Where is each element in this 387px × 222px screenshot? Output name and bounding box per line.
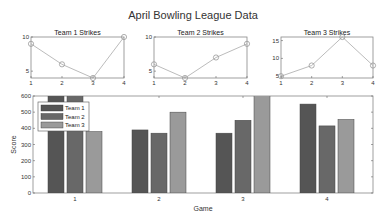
- figure: April Bowling League Data Team 1 Strikes…: [0, 0, 387, 222]
- y-tick-label: 400: [21, 125, 32, 131]
- subplot-title: Team 2 Strikes: [177, 29, 224, 36]
- bar: [300, 104, 316, 193]
- legend-label: Team 2: [65, 114, 85, 120]
- legend-label: Team 3: [65, 122, 85, 128]
- y-tick-label: 100: [21, 174, 32, 180]
- legend-swatch: [41, 114, 63, 120]
- subplot-2: Team 2 Strikes1234510: [145, 29, 249, 86]
- bar: [319, 126, 335, 193]
- x-tick-label: 4: [245, 80, 249, 86]
- plot-frame: [281, 37, 373, 78]
- chart-canvas: April Bowling League Data Team 1 Strikes…: [0, 0, 387, 222]
- bar: [338, 119, 354, 193]
- plot-frame: [154, 37, 247, 78]
- bar: [254, 90, 270, 193]
- bar: [235, 120, 251, 193]
- legend-swatch: [41, 122, 63, 128]
- x-tick-label: 1: [279, 80, 283, 86]
- y-axis-label: Score: [10, 135, 17, 153]
- x-tick-label: 1: [29, 80, 33, 86]
- subplot-1: Team 1 Strikes1234510: [22, 29, 126, 86]
- y-tick-label: 0: [28, 190, 32, 196]
- x-tick-label: 4: [325, 196, 329, 202]
- x-axis-label: Game: [193, 205, 212, 212]
- bar: [86, 132, 102, 193]
- y-tick-label: 600: [21, 93, 32, 99]
- y-tick-label: 15: [272, 38, 279, 44]
- x-tick-label: 1: [152, 80, 156, 86]
- x-tick-label: 4: [371, 80, 375, 86]
- y-tick-label: 10: [145, 34, 152, 40]
- legend-label: Team 1: [65, 105, 85, 111]
- bar-chart: 01002003004005006001234GameScoreTeam 1Te…: [10, 90, 373, 212]
- x-tick-label: 4: [122, 80, 126, 86]
- subplot-title: Team 1 Strikes: [54, 29, 101, 36]
- y-tick-label: 5: [149, 68, 153, 74]
- legend: Team 1Team 2Team 3: [38, 102, 89, 131]
- x-tick-label: 3: [214, 80, 218, 86]
- subplot-3: Team 3 Strikes123451015: [272, 29, 375, 86]
- bar: [216, 133, 232, 193]
- plot-frame: [31, 37, 124, 78]
- y-tick-label: 10: [272, 55, 279, 61]
- bar: [170, 112, 186, 193]
- x-tick-label: 2: [310, 80, 314, 86]
- y-tick-label: 10: [22, 34, 29, 40]
- x-tick-label: 3: [341, 80, 345, 86]
- x-tick-label: 2: [60, 80, 64, 86]
- y-tick-label: 200: [21, 158, 32, 164]
- y-tick-label: 5: [26, 68, 30, 74]
- y-tick-label: 500: [21, 109, 32, 115]
- legend-swatch: [41, 105, 63, 111]
- x-tick-label: 3: [241, 196, 245, 202]
- x-tick-label: 2: [157, 196, 161, 202]
- figure-title: April Bowling League Data: [128, 9, 259, 21]
- y-tick-label: 300: [21, 142, 32, 148]
- bar: [151, 133, 167, 193]
- bar: [132, 130, 148, 193]
- x-tick-label: 1: [73, 196, 77, 202]
